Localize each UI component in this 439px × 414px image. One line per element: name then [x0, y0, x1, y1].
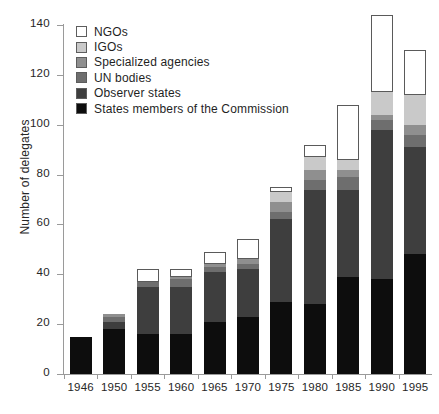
bar-segment-observer-states [270, 219, 292, 301]
bar-segment-un-bodies [237, 264, 259, 269]
bar-segment-states-members-of-the-commission [404, 254, 426, 374]
bar-segment-states-members-of-the-commission [103, 329, 125, 374]
bar-1990 [371, 25, 393, 374]
bar-segment-states-members-of-the-commission [237, 317, 259, 374]
legend-swatch-icon [76, 103, 87, 114]
legend-swatch-icon [76, 57, 87, 68]
legend-label: NGOs [94, 25, 128, 39]
bar-segment-igos [337, 160, 359, 170]
legend-swatch-icon [76, 72, 87, 83]
bar-segment-specialized-agencies [304, 170, 326, 180]
y-tick-mark [57, 274, 63, 275]
y-tick-mark [57, 175, 63, 176]
legend-swatch-icon [76, 42, 87, 53]
y-tick-label: 40 [18, 266, 50, 278]
y-tick-label: 120 [18, 67, 50, 79]
bar-segment-observer-states [137, 287, 159, 334]
bar-segment-specialized-agencies [170, 277, 192, 279]
y-tick-label: 0 [18, 366, 50, 378]
y-tick-mark [57, 324, 63, 325]
bar-segment-observer-states [404, 147, 426, 254]
bar-segment-specialized-agencies [270, 202, 292, 212]
bar-segment-observer-states [337, 190, 359, 277]
legend-item: NGOs [76, 24, 289, 39]
bar-segment-igos [371, 92, 393, 114]
bar-segment-states-members-of-the-commission [170, 334, 192, 374]
y-tick-mark [57, 224, 63, 225]
legend-item: Specialized agencies [76, 55, 289, 70]
bar-segment-specialized-agencies [337, 170, 359, 177]
bar-segment-ngos [371, 15, 393, 92]
y-tick-mark [57, 75, 63, 76]
bar-segment-observer-states [103, 322, 125, 329]
bar-segment-igos [404, 95, 426, 125]
bar-segment-specialized-agencies [371, 115, 393, 120]
bar-segment-un-bodies [204, 267, 226, 272]
legend-label: States members of the Commission [94, 102, 289, 116]
bar-segment-ngos [337, 105, 359, 160]
legend-item: States members of the Commission [76, 101, 289, 116]
x-tick-mark [399, 375, 400, 379]
y-tick-label: 20 [18, 316, 50, 328]
bar-segment-un-bodies [170, 279, 192, 286]
y-tick-mark [57, 125, 63, 126]
y-tick-label: 80 [18, 167, 50, 179]
x-tick-mark [97, 375, 98, 379]
legend-label: UN bodies [94, 71, 151, 85]
bar-segment-un-bodies [137, 282, 159, 287]
y-tick-mark [57, 25, 63, 26]
legend-label: Specialized agencies [94, 55, 210, 69]
x-tick-mark [64, 375, 65, 379]
bar-1980 [304, 25, 326, 374]
y-tick-label: 100 [18, 117, 50, 129]
bar-segment-states-members-of-the-commission [204, 322, 226, 374]
bar-segment-states-members-of-the-commission [337, 277, 359, 374]
bar-segment-specialized-agencies [404, 125, 426, 135]
bar-segment-specialized-agencies [103, 314, 125, 316]
bar-segment-ngos [204, 252, 226, 264]
bar-segment-un-bodies [304, 180, 326, 190]
legend-item: Observer states [76, 86, 289, 101]
bar-segment-igos [304, 157, 326, 169]
x-tick-mark [198, 375, 199, 379]
bar-1995 [404, 25, 426, 374]
legend-swatch-icon [76, 88, 87, 99]
y-tick-mark [57, 374, 63, 375]
stacked-bar-chart: Number of delegates 020406080100120140 1… [0, 0, 439, 414]
bar-segment-ngos [237, 239, 259, 259]
legend-item: UN bodies [76, 70, 289, 85]
bar-segment-igos [270, 192, 292, 202]
bar-segment-un-bodies [337, 177, 359, 189]
chart-legend: NGOsIGOsSpecialized agenciesUN bodiesObs… [76, 24, 289, 116]
bar-segment-un-bodies [371, 120, 393, 130]
bar-segment-un-bodies [270, 212, 292, 219]
legend-swatch-icon [76, 26, 87, 37]
x-tick-mark [332, 375, 333, 379]
bar-segment-observer-states [371, 130, 393, 280]
bar-segment-ngos [304, 145, 326, 157]
x-tick-label: 1995 [395, 381, 435, 393]
y-tick-label: 140 [18, 17, 50, 29]
x-tick-mark [164, 375, 165, 379]
bar-segment-observer-states [204, 272, 226, 322]
x-tick-mark [131, 375, 132, 379]
x-tick-mark [231, 375, 232, 379]
bar-segment-specialized-agencies [204, 264, 226, 266]
x-tick-mark [365, 375, 366, 379]
bar-segment-states-members-of-the-commission [371, 279, 393, 374]
bar-segment-observer-states [237, 269, 259, 316]
bar-segment-states-members-of-the-commission [304, 304, 326, 374]
legend-item: IGOs [76, 39, 289, 54]
bar-segment-states-members-of-the-commission [270, 302, 292, 374]
x-axis-line [63, 374, 432, 375]
legend-label: IGOs [94, 40, 123, 54]
bar-segment-ngos [270, 187, 292, 192]
bar-segment-observer-states [170, 287, 192, 334]
x-tick-mark [265, 375, 266, 379]
bar-segment-ngos [137, 269, 159, 281]
bar-1985 [337, 25, 359, 374]
legend-label: Observer states [94, 86, 181, 100]
bar-segment-states-members-of-the-commission [137, 334, 159, 374]
bar-segment-observer-states [304, 190, 326, 305]
x-tick-mark [298, 375, 299, 379]
